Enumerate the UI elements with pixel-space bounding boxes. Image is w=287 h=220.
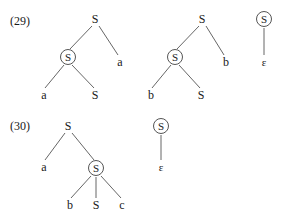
tree-29-b-edge-root-to-b <box>206 26 224 55</box>
example-number-29: (29) <box>10 15 30 27</box>
tree-30-a-leaf-c: c <box>119 199 124 211</box>
tree-30-a-inner-S: S <box>88 160 104 176</box>
tree-29-b-inner-S: S <box>167 49 183 65</box>
tree-29-a-right-leaf-a: a <box>117 56 122 68</box>
tree-29-b-edge-innerS-to-b <box>152 65 171 88</box>
tree-30-a-edge-root-to-a <box>45 133 65 160</box>
tree-29-b-edge-innerS-to-S <box>179 65 200 88</box>
tree-29-b-edge-root-to-inner-S <box>177 26 199 49</box>
tree-29-a-edge-root-to-a <box>99 26 118 55</box>
tree-29-a-inner-S: S <box>60 49 76 65</box>
tree-30-a-leaf-S: S <box>93 199 100 211</box>
tree-29-b-leaf-b: b <box>148 89 154 101</box>
tree-29-a-edge-root-to-inner-S <box>70 26 92 49</box>
tree-30-a-edge-innerS-to-b <box>71 176 91 198</box>
tree-29-b-root-S: S <box>199 13 206 25</box>
tree-30-a-edge-root-to-innerS <box>72 133 94 160</box>
tree-29-c-leaf-epsilon: ε <box>262 57 267 68</box>
tree-29-a-edge-innerS-to-a <box>45 65 64 88</box>
tree-30-a-left-leaf-a: a <box>41 161 46 173</box>
tree-edges-layer <box>0 0 287 220</box>
tree-29-a-root-S: S <box>92 13 99 25</box>
example-number-30: (30) <box>10 120 30 132</box>
tree-29-b-right-leaf-b: b <box>223 56 229 68</box>
tree-29-a-leaf-a: a <box>41 89 46 101</box>
tree-30-a-leaf-b: b <box>67 199 73 211</box>
tree-30-a-edge-innerS-to-c <box>101 176 121 198</box>
tree-30-b-root-S: S <box>153 118 169 134</box>
tree-30-a-root-S: S <box>65 120 72 132</box>
syntax-tree-diagram: (29)SSaaSSSbbSSε(30)SaSbScSε <box>0 0 287 220</box>
tree-29-c-root-S: S <box>256 11 272 27</box>
tree-29-a-leaf-S: S <box>92 89 99 101</box>
tree-29-b-leaf-S: S <box>198 89 205 101</box>
tree-30-b-leaf-epsilon: ε <box>159 162 164 173</box>
tree-29-a-edge-innerS-to-S <box>72 65 94 88</box>
